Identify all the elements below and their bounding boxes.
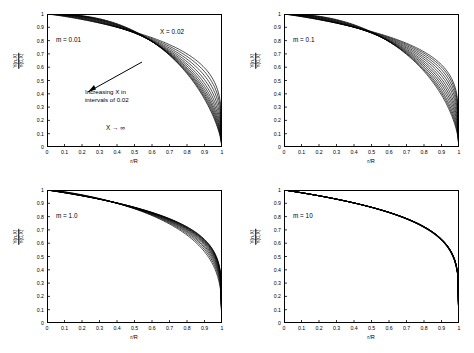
panel2-y-axis-title: Y(n,X) Y(0,X) <box>250 59 262 69</box>
y-tick-label: 0.5 <box>25 254 44 260</box>
panel2-m-label: m = 0.1 <box>293 36 315 43</box>
y-tick-label: 0.6 <box>25 64 44 70</box>
y-tick-label: 0.8 <box>25 214 44 220</box>
x-tick-label: 0.4 <box>345 149 363 155</box>
y-tick-label: 0.7 <box>25 227 44 233</box>
y-tick-label: 1 <box>262 187 281 193</box>
y-tick-label: 0.4 <box>25 91 44 97</box>
x-tick-label: 1 <box>450 149 468 155</box>
y-tick-label: 0.9 <box>262 200 281 206</box>
y-tick-label: 1 <box>25 11 44 17</box>
panel4-y-axis-denominator: Y(0,X) <box>257 229 262 245</box>
panel2-curves <box>284 14 459 147</box>
x-tick-label: 0.1 <box>56 325 74 331</box>
x-tick-label: 0.5 <box>363 149 381 155</box>
x-tick-label: 1 <box>213 325 231 331</box>
y-tick-label: 0.4 <box>262 267 281 273</box>
y-tick-label: 0.3 <box>262 104 281 110</box>
x-tick-label: 0.4 <box>345 325 363 331</box>
x-tick-label: 0.2 <box>310 149 328 155</box>
x-tick-label: 0.8 <box>415 325 433 331</box>
y-tick-label: 1 <box>262 11 281 17</box>
x-tick-label: 0.9 <box>196 149 214 155</box>
x-tick-label: 0.8 <box>178 325 196 331</box>
y-tick-label: 0.1 <box>262 307 281 313</box>
x-tick-label: 1 <box>213 149 231 155</box>
y-tick-label: 0.8 <box>25 38 44 44</box>
y-tick-label: 0.8 <box>262 214 281 220</box>
x-tick-label: 0.5 <box>363 325 381 331</box>
panel2-x-axis-title: r/R <box>351 158 391 164</box>
x-tick-label: 0.6 <box>143 149 161 155</box>
panel1-y-axis-denominator: Y(0,X) <box>20 53 25 69</box>
panel3-y-axis-denominator: Y(0,X) <box>20 229 25 245</box>
panel1-x-infinity-label: X → ∞ <box>106 124 125 131</box>
y-tick-label: 0.7 <box>262 51 281 57</box>
panel1-x-axis-title: r/R <box>114 158 154 164</box>
x-tick-label: 0.7 <box>398 149 416 155</box>
y-tick-label: 0.3 <box>262 280 281 286</box>
panel3-curves <box>47 190 222 323</box>
panel2-y-axis-denominator: Y(0,X) <box>257 53 262 69</box>
x-tick-label: 0.3 <box>328 325 346 331</box>
x-tick-label: 0.1 <box>56 149 74 155</box>
panel1-y-axis-title: Y(n,X) Y(0,X) <box>13 59 25 69</box>
x-tick-label: 0.2 <box>73 149 91 155</box>
panel-m-10: Y(n,X) Y(0,X) 00.10.20.30.40.50.60.70.80… <box>237 176 474 353</box>
y-tick-label: 1 <box>25 187 44 193</box>
y-tick-label: 0.5 <box>25 78 44 84</box>
y-tick-label: 0.7 <box>25 51 44 57</box>
x-tick-label: 1 <box>450 325 468 331</box>
y-tick-label: 0.8 <box>262 38 281 44</box>
y-tick-label: 0.3 <box>25 280 44 286</box>
y-tick-label: 0.9 <box>25 200 44 206</box>
panel3-y-axis-title: Y(n,X) Y(0,X) <box>13 235 25 245</box>
panel4-y-axis-title: Y(n,X) Y(0,X) <box>250 235 262 245</box>
y-tick-label: 0.6 <box>25 240 44 246</box>
x-tick-label: 0.8 <box>178 149 196 155</box>
x-tick-label: 0.1 <box>293 325 311 331</box>
y-tick-label: 0.5 <box>262 254 281 260</box>
y-tick-label: 0.2 <box>262 117 281 123</box>
x-tick-label: 0.9 <box>433 325 451 331</box>
x-tick-label: 0.7 <box>398 325 416 331</box>
panel3-x-axis-title: r/R <box>114 334 154 340</box>
y-tick-label: 0.9 <box>25 24 44 30</box>
x-tick-label: 0.3 <box>91 325 109 331</box>
x-tick-label: 0.8 <box>415 149 433 155</box>
figure-root: Y(n,X) Y(0,X) 00.10.20.30.40.50.60.70.80… <box>0 0 474 353</box>
panel-m-0p01: Y(n,X) Y(0,X) 00.10.20.30.40.50.60.70.80… <box>0 0 237 176</box>
x-tick-label: 0.5 <box>126 149 144 155</box>
x-tick-label: 0.9 <box>196 325 214 331</box>
y-tick-label: 0.1 <box>25 307 44 313</box>
panel1-x-002-label: X = 0.02 <box>160 28 184 35</box>
y-tick-label: 0.2 <box>25 293 44 299</box>
y-tick-label: 0.1 <box>262 131 281 137</box>
panel-m-0p1: Y(n,X) Y(0,X) 00.10.20.30.40.50.60.70.80… <box>237 0 474 176</box>
x-tick-label: 0.4 <box>108 149 126 155</box>
y-tick-label: 0 <box>262 320 281 326</box>
y-tick-label: 0 <box>25 320 44 326</box>
y-tick-label: 0.5 <box>262 78 281 84</box>
y-tick-label: 0.4 <box>262 91 281 97</box>
x-tick-label: 0.4 <box>108 325 126 331</box>
y-tick-label: 0.6 <box>262 64 281 70</box>
panel3-m-label: m = 1.0 <box>56 212 78 219</box>
panel-m-1p0: Y(n,X) Y(0,X) 00.10.20.30.40.50.60.70.80… <box>0 176 237 353</box>
x-tick-label: 0.6 <box>380 325 398 331</box>
x-tick-label: 0.7 <box>161 149 179 155</box>
x-tick-label: 0.2 <box>310 325 328 331</box>
panel4-curves <box>284 190 459 323</box>
x-tick-label: 0.9 <box>433 149 451 155</box>
x-tick-label: 0.3 <box>328 149 346 155</box>
panel1-m-label: m = 0.01 <box>56 36 81 43</box>
panel4-x-axis-title: r/R <box>351 334 391 340</box>
x-tick-label: 0.3 <box>91 149 109 155</box>
y-tick-label: 0 <box>25 144 44 150</box>
y-tick-label: 0.1 <box>25 131 44 137</box>
x-tick-label: 0.6 <box>380 149 398 155</box>
panel4-m-label: m = 10 <box>293 212 313 219</box>
x-tick-label: 0.1 <box>293 149 311 155</box>
y-tick-label: 0.3 <box>25 104 44 110</box>
y-tick-label: 0 <box>262 144 281 150</box>
